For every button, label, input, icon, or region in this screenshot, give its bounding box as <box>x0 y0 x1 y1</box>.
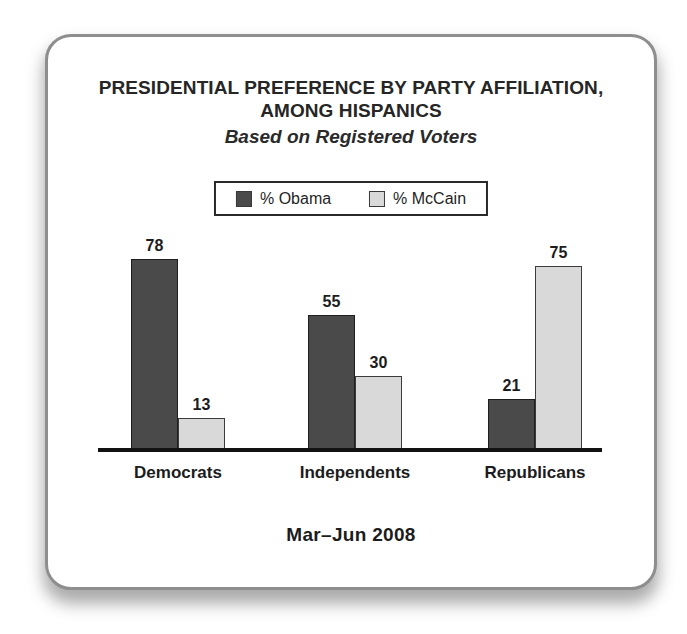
chart-card: PRESIDENTIAL PREFERENCE BY PARTY AFFILIA… <box>45 34 657 590</box>
bar-column-democrats-mccain: 13 <box>178 397 225 450</box>
plot-area: 781355302175 <box>48 37 654 450</box>
obama-bar-democrats <box>131 259 178 450</box>
bar-group-republicans: 2175 <box>488 245 582 450</box>
mccain-bar-democrats <box>178 418 225 450</box>
bar-group-independents: 5530 <box>308 294 402 450</box>
x-axis-line <box>98 448 602 452</box>
bar-column-republicans-mccain: 75 <box>535 245 582 450</box>
category-label-democrats: Democrats <box>98 463 258 483</box>
bar-value-label-independents-mccain: 30 <box>370 355 388 371</box>
bar-column-independents-mccain: 30 <box>355 355 402 450</box>
bar-column-republicans-obama: 21 <box>488 378 535 450</box>
bar-value-label-republicans-mccain: 75 <box>550 245 568 261</box>
bar-column-independents-obama: 55 <box>308 294 355 450</box>
bar-value-label-democrats-mccain: 13 <box>193 397 211 413</box>
bar-column-democrats-obama: 78 <box>131 238 178 450</box>
obama-bar-independents <box>308 315 355 450</box>
obama-bar-republicans <box>488 399 535 450</box>
x-axis-period-label: Mar–Jun 2008 <box>48 524 654 546</box>
category-label-independents: Independents <box>275 463 435 483</box>
mccain-bar-independents <box>355 376 402 450</box>
page-background: PRESIDENTIAL PREFERENCE BY PARTY AFFILIA… <box>0 0 687 634</box>
bar-group-democrats: 7813 <box>131 238 225 450</box>
bar-value-label-democrats-obama: 78 <box>146 238 164 254</box>
bar-value-label-republicans-obama: 21 <box>503 378 521 394</box>
bar-value-label-independents-obama: 55 <box>323 294 341 310</box>
category-label-republicans: Republicans <box>455 463 615 483</box>
mccain-bar-republicans <box>535 266 582 450</box>
